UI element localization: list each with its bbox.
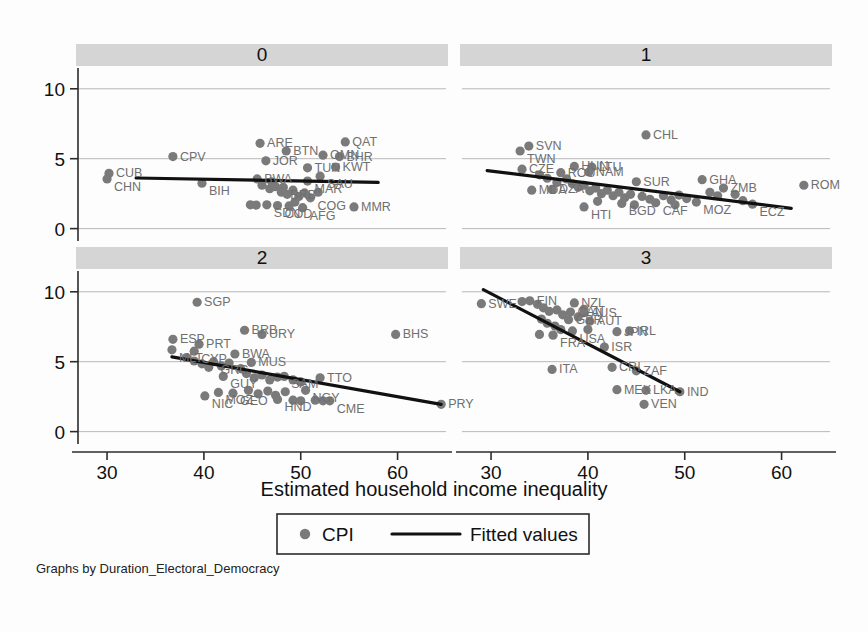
point-label-VEN: VEN: [651, 397, 677, 411]
data-point-GHA: [698, 175, 707, 184]
data-point-CHN: [102, 174, 111, 183]
data-point-JOR: [261, 156, 270, 165]
data-point-MDA: [527, 186, 536, 195]
point-label-CAF: CAF: [663, 204, 688, 218]
point-label-SVN: SVN: [536, 139, 562, 153]
data-point: [517, 297, 526, 306]
data-point-OMN: [318, 151, 327, 160]
data-point: [535, 330, 544, 339]
legend-marker-icon: [300, 529, 310, 539]
point-label-ZAF: ZAF: [643, 364, 667, 378]
data-point-BRB: [240, 326, 249, 335]
point-label-GEO: GEO: [240, 394, 268, 408]
data-point-MOZ: [214, 388, 223, 397]
point-label-CPV: CPV: [180, 150, 206, 164]
point-label-GRC: GRC: [221, 363, 249, 377]
point-label-ISR: ISR: [611, 340, 632, 354]
point-label-CZE: CZE: [529, 162, 554, 176]
point-label-ITA: ITA: [559, 362, 578, 376]
data-point-MLT: [167, 345, 176, 354]
point-label-IND: IND: [687, 385, 709, 399]
data-point-NIC: [200, 391, 209, 400]
point-label-FRA: FRA: [560, 336, 586, 350]
legend-marker-label: CPI: [322, 524, 354, 545]
data-point-SWE: [477, 299, 486, 308]
y-tick-label-10: 10: [44, 79, 65, 100]
x-tick-label-30-col0: 30: [96, 462, 117, 483]
data-point-TWN: [516, 146, 525, 155]
point-label-HND: HND: [284, 400, 311, 414]
legend-line-label: Fitted values: [470, 524, 578, 545]
figure-note: Graphs by Duration_Electoral_Democracy: [36, 561, 280, 576]
scatter-figure: 00510CUBCHNCPVBIHAREJORBTNQATOMNBHRTUNKW…: [0, 0, 868, 632]
data-point: [645, 195, 654, 204]
point-label-MAR: MAR: [315, 182, 343, 196]
data-point: [626, 190, 635, 199]
point-label-DZA: DZA: [559, 182, 585, 196]
data-point: [593, 197, 602, 206]
point-label-GUY: GUY: [230, 377, 258, 391]
point-label-TUN: TUN: [315, 161, 341, 175]
screenshot-root: 00510CUBCHNCPVBIHAREJORBTNQATOMNBHRTUNKW…: [0, 0, 868, 632]
panel-strip-label-3: 3: [641, 247, 652, 268]
chart-canvas: 00510CUBCHNCPVBIHAREJORBTNQATOMNBHRTUNKW…: [0, 0, 868, 632]
point-label-BWA: BWA: [264, 172, 293, 186]
point-label-MMR: MMR: [361, 200, 391, 214]
point-label-ROU: ROU: [568, 166, 596, 180]
point-label-BRB: BRB: [290, 188, 316, 202]
x-tick-label-60-col1: 60: [771, 462, 792, 483]
data-point-QAT: [341, 137, 350, 146]
data-point-VEN: [639, 400, 648, 409]
point-label-MUS: MUS: [258, 355, 286, 369]
point-label-MEX: MEX: [624, 383, 652, 397]
point-label-BTN: BTN: [293, 144, 318, 158]
point-label-AFG: AFG: [310, 209, 336, 223]
point-label-COD: COD: [284, 207, 312, 221]
data-point-SUR: [632, 177, 641, 186]
point-label-ZMB: ZMB: [730, 181, 756, 195]
point-label-SUR: SUR: [643, 175, 669, 189]
x-tick-label-50-col1: 50: [674, 462, 695, 483]
data-point: [271, 391, 280, 400]
data-point-ESP: [168, 335, 177, 344]
point-label-BIH: BIH: [209, 184, 230, 198]
y-tick-label-5: 5: [54, 149, 65, 170]
data-point-CZE: [517, 165, 526, 174]
data-point: [252, 201, 261, 210]
data-point-MMR: [349, 202, 358, 211]
y-tick-label-5: 5: [54, 352, 65, 373]
panel-strip-label-1: 1: [641, 44, 652, 65]
point-label-CRI: CRI: [619, 360, 641, 374]
panel-strip-label-0: 0: [257, 44, 268, 65]
data-point-FRA: [548, 331, 557, 340]
data-point-ARE: [255, 139, 264, 148]
data-point-MOZ: [692, 197, 701, 206]
point-label-CME: CME: [337, 402, 365, 416]
data-point-CPV: [168, 152, 177, 161]
panel-strip-label-2: 2: [257, 247, 268, 268]
data-point-BHS: [391, 330, 400, 339]
y-tick-label-10: 10: [44, 282, 65, 303]
point-label-SWE: SWE: [488, 297, 516, 311]
point-label-NAM: NAM: [596, 165, 624, 179]
data-point-MEX: [612, 385, 621, 394]
figure-background: [0, 0, 868, 632]
point-label-MLT: MLT: [179, 351, 203, 365]
data-point: [558, 310, 567, 319]
point-label-CUB: CUB: [116, 166, 142, 180]
point-label-MOZ: MOZ: [703, 203, 731, 217]
point-label-ESP: ESP: [180, 332, 205, 346]
data-point-SVN: [524, 142, 533, 151]
point-label-LKA: LKA: [653, 383, 677, 397]
point-label-URY: URY: [269, 327, 296, 341]
data-point-JPN: [612, 327, 621, 336]
point-label-ROM: ROM: [811, 178, 840, 192]
point-label-CHL: CHL: [653, 128, 678, 142]
point-label-PRT: PRT: [206, 337, 231, 351]
point-label-HTI: HTI: [591, 208, 611, 222]
point-label-SAM: SAM: [291, 377, 318, 391]
data-point: [281, 387, 290, 396]
point-label-FIN: FIN: [537, 294, 557, 308]
point-label-CHN: CHN: [114, 180, 141, 194]
point-label-BHS: BHS: [403, 327, 429, 341]
